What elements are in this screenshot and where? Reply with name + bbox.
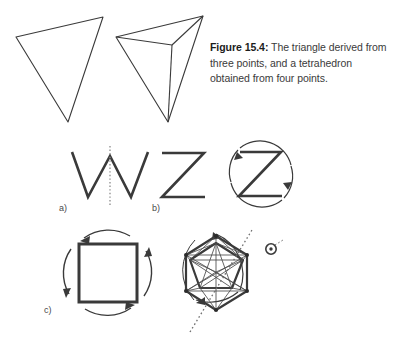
panel-d-polyhedron [183, 230, 283, 332]
panel-b-glyph-z [162, 153, 205, 197]
panel-label-a: a) [59, 203, 67, 213]
figure-caption: Figure 15.4: The triangle derived from t… [210, 40, 388, 87]
triangle-shape [16, 17, 103, 122]
rotation-marker-icon [266, 240, 283, 254]
panel-label-b: b) [152, 203, 160, 213]
figure-page: Figure 15.4: The triangle derived from t… [0, 0, 394, 345]
figure-caption-label: Figure 15.4: [210, 41, 268, 53]
panel-b-rotated-z [229, 141, 292, 207]
tetrahedron-shape [116, 16, 203, 122]
panel-label-c: c) [44, 305, 52, 315]
panel-c-square [79, 244, 137, 302]
